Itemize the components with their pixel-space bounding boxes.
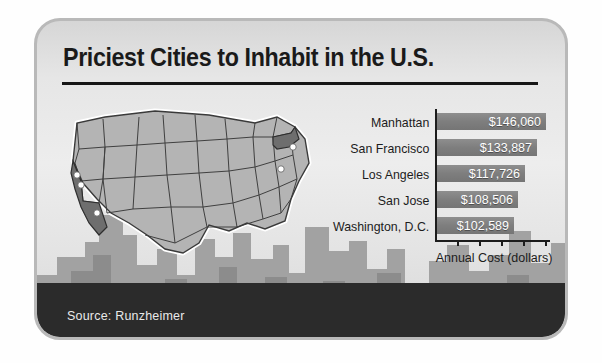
map-marker-los-angeles [94,210,100,216]
chart-row: Washington, D.C. $102,589 [323,213,551,239]
chart-bar-value: $102,589 [457,219,514,233]
chart-x-axis [435,240,550,242]
chart-category-label: Manhattan [329,115,435,130]
chart-bar-track: $108,506 [435,187,551,213]
chart-row: San Jose $108,506 [323,187,551,213]
chart-bar-value: $108,506 [461,193,518,207]
map-marker-san-francisco [74,172,80,178]
chart-category-label: Washington, D.C. [329,219,435,234]
united-states-map [59,103,319,273]
chart-x-tick [501,242,503,246]
chart-bar-track: $133,887 [435,135,551,161]
chart-bar-value: $117,726 [469,167,525,181]
chart-x-tick [479,242,481,246]
chart-x-axis-label: Annual Cost (dollars) [435,251,553,265]
chart-x-tick [545,242,547,246]
chart-bar-track: $146,060 [435,109,551,135]
bar-chart: Manhattan $146,060 San Francisco $133,88… [323,109,551,289]
map-marker-manhattan [290,144,296,150]
chart-row: Los Angeles $117,726 [323,161,551,187]
bar-chart-rows: Manhattan $146,060 San Francisco $133,88… [323,109,551,239]
chart-row: San Francisco $133,887 [323,135,551,161]
card-inner: Manhattan $146,060 San Francisco $133,88… [37,21,565,337]
chart-bar[interactable]: $117,726 [437,165,525,182]
map-marker-washington-dc [278,166,284,172]
title-underline [62,82,538,85]
chart-bar[interactable]: $102,589 [437,217,514,234]
chart-row: Manhattan $146,060 [323,109,551,135]
chart-bar-value: $133,887 [480,141,537,155]
source-credit: Source: Runzheimer [67,309,185,323]
page-title: Priciest Cities to Inhabit in the U.S. [63,43,434,72]
chart-x-tick [457,242,459,246]
chart-bar-track: $117,726 [435,161,551,187]
infographic-card: Manhattan $146,060 San Francisco $133,88… [34,18,568,340]
chart-bar[interactable]: $146,060 [437,113,546,130]
infographic-root: Manhattan $146,060 San Francisco $133,88… [0,0,602,363]
chart-category-label: Los Angeles [329,167,435,182]
chart-y-axis [435,109,437,241]
chart-bar-track: $102,589 [435,213,551,239]
chart-category-label: San Jose [329,193,435,208]
chart-bar[interactable]: $108,506 [437,191,518,208]
chart-bar-value: $146,060 [489,115,546,129]
map-marker-san-jose [78,182,84,188]
chart-x-tick [523,242,525,246]
chart-category-label: San Francisco [329,141,435,156]
chart-bar[interactable]: $133,887 [437,139,537,156]
